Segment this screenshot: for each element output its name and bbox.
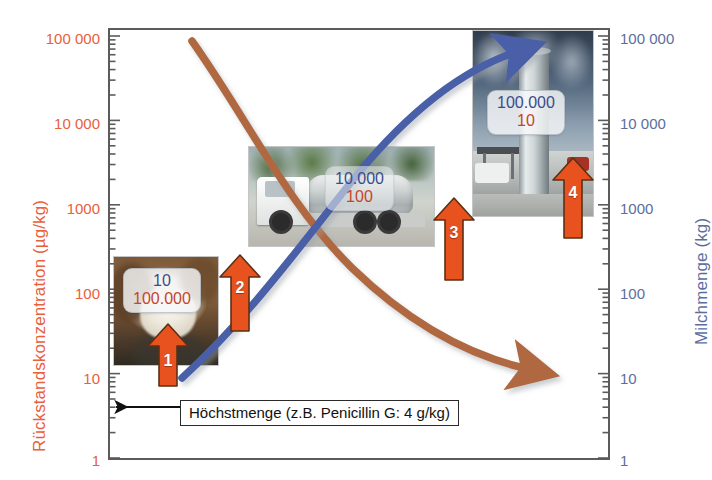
right-tick-10000: 10 000	[620, 115, 666, 132]
truck-value-callout: 10.000 100	[325, 166, 394, 211]
stage-marker-3-label: 3	[432, 224, 476, 242]
left-tick-10: 10	[83, 370, 100, 387]
stage-marker-3: 3	[432, 196, 476, 282]
left-axis-title: Rückstandskonzentration (µg/kg)	[30, 200, 50, 452]
silo-residue-value: 10	[497, 112, 555, 130]
truck-residue-value: 100	[335, 188, 384, 206]
silo-value-callout: 100.000 10	[487, 90, 565, 135]
left-tick-1000: 1000	[67, 200, 100, 217]
cow-value-callout: 10 100.000	[123, 268, 201, 313]
right-tick-1: 1	[620, 452, 628, 469]
stage-marker-1-label: 1	[146, 352, 190, 370]
right-tick-100000: 100 000	[620, 30, 674, 47]
stage-marker-2-label: 2	[218, 279, 262, 297]
maxlimit-annotation-box: Höchstmenge (z.B. Penicillin G: 4 g/kg)	[180, 400, 459, 426]
left-tick-100000: 100 000	[46, 30, 100, 47]
maxlimit-leader-arrow	[110, 398, 186, 424]
cow-milk-value: 10	[133, 272, 191, 290]
maxlimit-annotation-text: Höchstmenge (z.B. Penicillin G: 4 g/kg)	[189, 404, 450, 421]
stage-marker-4-label: 4	[551, 184, 595, 202]
stage-marker-2: 2	[218, 253, 262, 333]
right-tick-10: 10	[620, 370, 637, 387]
right-tick-1000: 1000	[620, 200, 653, 217]
left-tick-100: 100	[75, 285, 100, 302]
truck-milk-value: 10.000	[335, 170, 384, 188]
right-tick-100: 100	[620, 285, 645, 302]
left-tick-10000: 10 000	[54, 115, 100, 132]
stage-marker-1: 1	[146, 322, 190, 388]
silo-milk-value: 100.000	[497, 94, 555, 112]
right-axis-title: Milchmenge (kg)	[692, 218, 712, 345]
left-tick-1: 1	[92, 452, 100, 469]
stage-marker-4: 4	[551, 156, 595, 240]
cow-residue-value: 100.000	[133, 290, 191, 308]
